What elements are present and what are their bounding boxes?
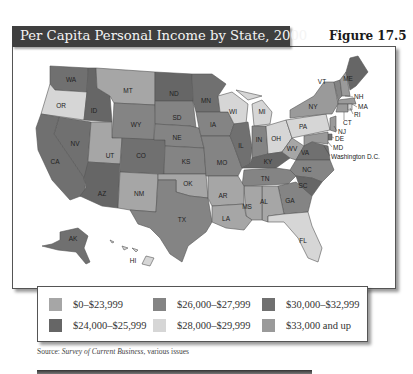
label-CO: CO <box>136 152 146 159</box>
legend-item-30000-32999: $30,000–$32,999 <box>262 297 360 311</box>
label-ID: ID <box>91 107 98 114</box>
label-TN: TN <box>261 175 270 182</box>
label-NC: NC <box>302 166 312 173</box>
state-AR <box>208 176 244 206</box>
label-MI: MI <box>258 108 265 115</box>
legend: $0–$23,999 $24,000–$25,999 $26,000–$27,9… <box>37 286 368 342</box>
label-OK: OK <box>183 180 193 187</box>
label-PA: PA <box>299 123 308 130</box>
label-NJ: NJ <box>338 128 346 135</box>
label-OR: OR <box>56 102 66 109</box>
state-CT <box>336 104 348 112</box>
state-RI <box>348 104 352 110</box>
legend-swatch <box>262 319 275 332</box>
state-NJ <box>330 116 336 132</box>
label-NE: NE <box>172 134 182 141</box>
label-DE: DE <box>335 135 345 142</box>
legend-label: $24,000–$25,999 <box>73 320 147 331</box>
legend-swatch <box>49 298 62 311</box>
state-FL <box>268 212 322 262</box>
label-NV: NV <box>70 140 80 147</box>
legend-swatch <box>49 319 62 332</box>
state-AK <box>42 228 90 264</box>
label-AR: AR <box>218 192 227 199</box>
bottom-rule <box>37 370 312 374</box>
legend-label: $26,000–$27,999 <box>177 299 251 310</box>
label-RI: RI <box>354 111 361 118</box>
label-AZ: AZ <box>98 190 106 197</box>
state-AZ <box>80 162 120 208</box>
label-KS: KS <box>182 158 191 165</box>
label-AL: AL <box>260 198 268 205</box>
label-SC: SC <box>298 182 307 189</box>
label-GA: GA <box>285 197 295 204</box>
label-LA: LA <box>222 215 231 222</box>
state-NY <box>290 82 338 118</box>
legend-swatch <box>262 298 275 311</box>
legend-item-0-23999: $0–$23,999 <box>49 297 123 311</box>
label-WA: WA <box>66 76 77 83</box>
source-suffix: , various issues <box>143 347 189 356</box>
legend-label: $33,000 and up <box>286 320 351 331</box>
legend-swatch <box>153 298 166 311</box>
label-MA: MA <box>358 103 368 110</box>
title-bar: Per Capita Personal Income by State, 200… <box>12 26 290 47</box>
label-NM: NM <box>134 190 144 197</box>
label-WY: WY <box>131 121 142 128</box>
label-WV: WV <box>287 145 298 152</box>
legend-label: $28,000–$29,999 <box>177 320 251 331</box>
label-UT: UT <box>106 152 115 159</box>
label-TX: TX <box>178 216 187 223</box>
label-ND: ND <box>169 90 179 97</box>
us-choropleth-map: WA OR ID MT ND MN WI MI NY VT ME NH MA R… <box>12 46 394 287</box>
legend-item-26000-27999: $26,000–$27,999 <box>153 297 251 311</box>
source-note: Source: Survey of Current Business, vari… <box>37 347 189 356</box>
label-SD: SD <box>172 114 181 121</box>
label-KY: KY <box>264 158 273 165</box>
legend-label: $30,000–$32,999 <box>286 299 360 310</box>
label-AK: AK <box>69 235 78 242</box>
label-VA: VA <box>301 149 310 156</box>
label-ME: ME <box>343 75 353 82</box>
state-ME <box>346 56 368 90</box>
label-IL: IL <box>238 142 244 149</box>
label-NH: NH <box>354 93 364 100</box>
legend-item-33000-up: $33,000 and up <box>262 318 351 332</box>
source-prefix: Source: <box>37 347 62 356</box>
label-VT: VT <box>318 78 326 85</box>
legend-item-24000-25999: $24,000–$25,999 <box>49 318 147 332</box>
label-IA: IA <box>210 121 217 128</box>
label-dc: Washington D.C. <box>331 153 380 161</box>
label-HI: HI <box>130 257 137 264</box>
map-title: Per Capita Personal Income by State, 200… <box>20 28 307 43</box>
label-CA: CA <box>50 158 60 165</box>
legend-item-28000-29999: $28,000–$29,999 <box>153 318 251 332</box>
state-DE <box>328 134 332 140</box>
label-MN: MN <box>201 97 211 104</box>
label-MO: MO <box>217 159 227 166</box>
label-MS: MS <box>242 203 252 210</box>
label-CT: CT <box>343 119 352 126</box>
label-OH: OH <box>271 135 281 142</box>
label-WI: WI <box>229 108 237 115</box>
figure-label: Figure 17.5 <box>329 29 407 43</box>
legend-label: $0–$23,999 <box>73 299 123 310</box>
legend-swatch <box>153 319 166 332</box>
label-MT: MT <box>123 87 132 94</box>
label-NY: NY <box>308 103 318 110</box>
label-IN: IN <box>256 136 263 143</box>
label-MD: MD <box>333 144 343 151</box>
label-FL: FL <box>299 237 307 244</box>
source-publication: Survey of Current Business <box>62 347 144 356</box>
